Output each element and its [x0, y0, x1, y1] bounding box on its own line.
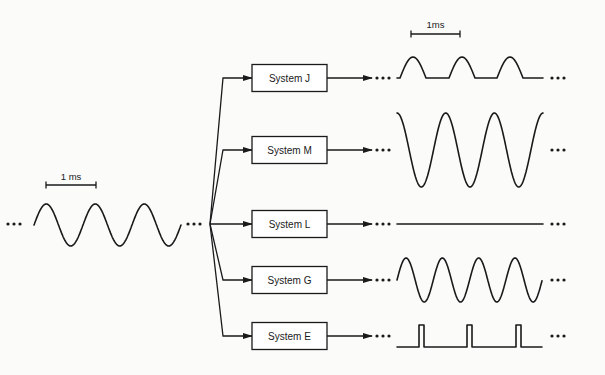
system-g-label: System G — [268, 275, 312, 286]
amplified-wave — [397, 113, 543, 187]
input-sine-wave — [34, 204, 181, 246]
output-signal-l — [375, 222, 565, 225]
wire-to-system-j — [210, 78, 252, 224]
output-j-leading-ellipsis — [375, 76, 390, 79]
output-signal-g — [375, 258, 565, 302]
output-m-leading-ellipsis — [375, 148, 390, 151]
diagram-canvas — [0, 0, 605, 375]
output-signal-j — [375, 31, 565, 80]
wire-to-system-g — [210, 224, 252, 280]
output-signals — [375, 31, 565, 348]
output-g-leading-ellipsis — [375, 278, 390, 281]
output-scale-bar — [411, 31, 460, 38]
system-l-label: System L — [269, 219, 311, 230]
wire-to-system-m — [210, 150, 252, 224]
output-l-leading-ellipsis — [375, 222, 390, 225]
output-g-trailing-ellipsis — [550, 278, 565, 281]
output-e-leading-ellipsis — [375, 334, 390, 337]
output-l-trailing-ellipsis — [550, 222, 565, 225]
input-signal-group — [6, 182, 201, 247]
output-m-trailing-ellipsis — [550, 148, 565, 151]
system-j-label: System J — [269, 73, 310, 84]
input-trailing-ellipsis — [186, 222, 201, 225]
input-leading-ellipsis — [6, 222, 21, 225]
system-m-label: System M — [267, 145, 311, 156]
system-blocks — [252, 65, 327, 350]
system-e-label: System E — [268, 331, 311, 342]
signal-systems-diagram: 1 ms 1ms System J System M System L Syst… — [0, 0, 605, 375]
output-signal-m — [375, 113, 565, 187]
high-frequency-wave — [397, 258, 542, 302]
input-scale-bar — [46, 182, 96, 189]
output-j-trailing-ellipsis — [550, 76, 565, 79]
output-signal-e — [375, 325, 565, 347]
output-scale-bar-label: 1ms — [427, 19, 445, 30]
input-scale-bar-label: 1 ms — [61, 171, 82, 182]
pulse-train — [397, 325, 542, 347]
output-e-trailing-ellipsis — [550, 334, 565, 337]
fanout-wires — [210, 78, 372, 336]
rectified-wave — [397, 57, 543, 78]
